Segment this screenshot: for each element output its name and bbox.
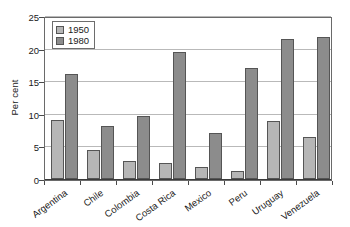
bar-group <box>261 16 297 179</box>
bar-costa-rica-1950 <box>159 163 172 179</box>
x-tick-mark <box>260 181 261 185</box>
bar-group <box>297 16 333 179</box>
legend-swatch-icon-1950 <box>56 26 64 34</box>
bar-colombia-1980 <box>137 116 150 179</box>
x-tick-mark <box>152 181 153 185</box>
bar-peru-1980 <box>245 68 258 179</box>
bar-group <box>117 16 153 179</box>
y-tick-label: 15 <box>13 78 39 88</box>
y-tick-label: 25 <box>13 13 39 23</box>
x-tick-mark <box>296 181 297 185</box>
y-tick-label: 5 <box>13 143 39 153</box>
x-tick-mark <box>116 181 117 185</box>
bar-costa-rica-1980 <box>173 52 186 179</box>
bar-peru-1950 <box>231 171 244 179</box>
bar-colombia-1950 <box>123 161 136 179</box>
legend-item-1950: 1950 <box>56 24 89 35</box>
bar-uruguay-1950 <box>267 121 280 179</box>
bar-chile-1980 <box>101 126 114 179</box>
x-tick-mark <box>188 181 189 185</box>
bar-uruguay-1980 <box>281 39 294 179</box>
x-tick-mark <box>332 181 333 185</box>
x-tick-mark <box>224 181 225 185</box>
legend-item-1980: 1980 <box>56 35 89 46</box>
x-tick-mark <box>44 181 45 185</box>
bar-argentina-1950 <box>51 120 64 179</box>
chart-legend: 1950 1980 <box>52 21 95 49</box>
y-axis-title: Per cent <box>9 63 20 133</box>
bar-group <box>153 16 189 179</box>
y-tick-label: 0 <box>13 176 39 186</box>
bar-argentina-1980 <box>65 74 78 179</box>
y-tick-label: 10 <box>13 111 39 121</box>
bar-group <box>189 16 225 179</box>
legend-label-1950: 1950 <box>68 25 89 35</box>
bar-group <box>225 16 261 179</box>
legend-swatch-icon-1980 <box>56 37 64 45</box>
bar-chile-1950 <box>87 150 100 179</box>
y-tick-label: 20 <box>13 46 39 56</box>
x-tick-mark <box>80 181 81 185</box>
bar-venezuela-1980 <box>317 37 330 179</box>
bar-chart: Per cent 0510152025 ArgentinaChileColomb… <box>0 0 350 227</box>
bar-mexico-1950 <box>195 167 208 179</box>
bar-venezuela-1950 <box>303 137 316 179</box>
legend-label-1980: 1980 <box>68 36 89 46</box>
bar-mexico-1980 <box>209 133 222 179</box>
